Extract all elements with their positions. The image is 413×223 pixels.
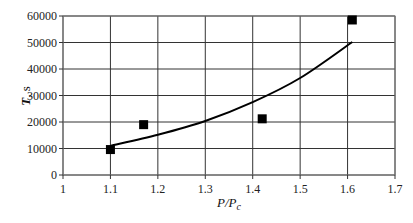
x-tick-label: 1.4 <box>245 182 260 196</box>
data-point-marker <box>106 145 115 154</box>
x-axis-label: P/Pc <box>216 195 242 212</box>
y-axis-label-unit: , s <box>18 86 33 98</box>
y-tick-label: 0 <box>51 168 57 182</box>
y-tick-label: 60000 <box>27 9 57 23</box>
x-tick-label: 1.1 <box>103 182 118 196</box>
chart: 0100002000030000400005000060000 11.11.21… <box>0 0 413 223</box>
x-axis-label-main: P/P <box>216 195 237 210</box>
x-tick-label: 1.7 <box>388 182 403 196</box>
x-axis-ticks: 11.11.21.31.41.51.61.7 <box>60 175 403 196</box>
data-point-marker <box>348 15 357 24</box>
x-tick-label: 1 <box>60 182 66 196</box>
x-tick-label: 1.5 <box>293 182 308 196</box>
data-points <box>106 15 357 154</box>
y-tick-label: 40000 <box>27 62 57 76</box>
y-tick-label: 10000 <box>27 142 57 156</box>
y-tick-label: 50000 <box>27 36 57 50</box>
y-axis-label: T, s <box>18 86 33 106</box>
data-point-marker <box>258 114 267 123</box>
y-tick-label: 20000 <box>27 115 57 129</box>
fit-curve <box>110 42 352 146</box>
x-tick-label: 1.3 <box>198 182 213 196</box>
x-axis-label-subscript: c <box>237 201 242 212</box>
data-point-marker <box>139 120 148 129</box>
x-tick-label: 1.6 <box>340 182 355 196</box>
x-tick-label: 1.2 <box>150 182 165 196</box>
